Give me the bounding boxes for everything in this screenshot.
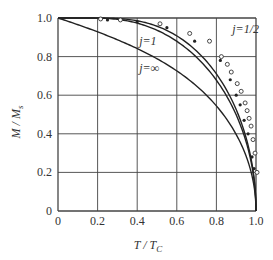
x-tick-label: 0.4 [130, 214, 145, 228]
data-point-filled [136, 20, 139, 23]
data-point-open [249, 124, 253, 128]
data-point-open [235, 82, 239, 86]
data-point-open [208, 39, 212, 43]
x-tick-label: 0.2 [90, 214, 105, 228]
curve-j=1/2 [58, 18, 256, 211]
x-tick-label: 0.6 [169, 214, 184, 228]
y-tick-label: 0.4 [37, 127, 52, 141]
data-point-filled [252, 167, 255, 170]
data-point-open [158, 22, 162, 26]
data-point-open [251, 138, 255, 142]
data-point-filled [250, 155, 253, 158]
y-tick-label: 0.6 [37, 88, 52, 102]
data-point-filled [165, 26, 168, 29]
curve-labels: j=1/2j=1j=∞ [137, 22, 259, 75]
x-tick-label: 0.8 [209, 214, 224, 228]
y-tick-label: 0.2 [37, 165, 52, 179]
theory-curves [58, 18, 256, 211]
data-points [99, 17, 259, 174]
data-point-filled [229, 78, 232, 81]
curve-label: j=1/2 [230, 22, 259, 36]
data-point-open [188, 31, 192, 35]
data-point-open [239, 89, 243, 93]
x-axis-label: T / TC [134, 238, 163, 254]
data-point-filled [243, 119, 246, 122]
y-axis-label: M / Ms [9, 105, 25, 139]
data-point-filled [239, 103, 242, 106]
data-point-open [253, 151, 257, 155]
data-point-open [118, 18, 122, 22]
data-point-filled [246, 132, 249, 135]
y-tick-label: 0 [46, 204, 52, 218]
data-point-open [245, 109, 249, 113]
curve-label: j=1 [137, 34, 156, 48]
curve-j=1 [58, 18, 256, 211]
curve-label: j=∞ [137, 61, 159, 75]
data-point-open [219, 55, 223, 59]
data-point-open [243, 101, 247, 105]
data-point-open [247, 116, 251, 120]
x-tick-label: 0 [55, 214, 61, 228]
curve-j=∞ [58, 18, 256, 211]
grid-lines [58, 18, 256, 211]
data-point-filled [219, 59, 222, 62]
data-point-filled [235, 94, 238, 97]
data-point-open [225, 62, 229, 66]
y-tick-label: 1.0 [37, 11, 52, 25]
data-point-filled [193, 40, 196, 43]
data-point-open [229, 70, 233, 74]
y-axis-ticks: 00.20.40.60.81.0 [37, 11, 52, 218]
y-tick-label: 0.8 [37, 50, 52, 64]
data-point-open [255, 170, 259, 174]
data-point-filled [106, 18, 109, 21]
magnetization-chart: 00.20.40.60.81.0 00.20.40.60.81.0 j=1/2j… [0, 0, 273, 260]
data-point-open [99, 17, 103, 21]
x-tick-label: 1.0 [249, 214, 264, 228]
x-axis-ticks: 00.20.40.60.81.0 [55, 214, 264, 228]
